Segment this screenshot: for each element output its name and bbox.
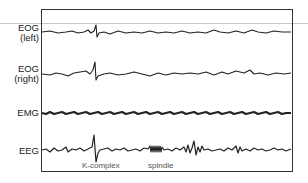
- trace-eog-left: [42, 25, 291, 37]
- trace-emg: [42, 112, 291, 114]
- trace-eog-right: [42, 62, 291, 80]
- trace-eeg: [42, 135, 291, 162]
- annotation-k-complex: K-complex: [82, 161, 120, 170]
- annotation-spindle: spindle: [148, 161, 173, 170]
- trace-plot: [0, 0, 308, 183]
